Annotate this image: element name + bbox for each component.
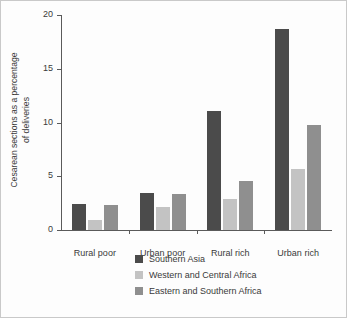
y-axis-tick: 15	[57, 69, 61, 70]
legend-item[interactable]: Western and Central Africa	[135, 267, 262, 283]
x-axis-tick	[197, 230, 198, 234]
y-axis-line	[61, 15, 62, 230]
chart-legend: Southern AsiaWestern and Central AfricaE…	[135, 251, 262, 299]
bar	[291, 169, 305, 230]
x-axis-tick	[264, 230, 265, 234]
y-axis-title-line-2: of deliveries	[20, 52, 32, 187]
plot-area: 05101520 Rural poorUrban poorRural richU…	[61, 15, 332, 230]
x-axis-label: Urban rich	[277, 248, 319, 258]
bar	[275, 29, 289, 230]
y-axis-title: Cesarean sections as a percentage of del…	[3, 9, 37, 231]
x-axis-label: Rural poor	[74, 248, 116, 258]
y-axis-title-line-1: Cesarean sections as a percentage	[9, 52, 21, 187]
y-axis-tick: 20	[57, 15, 61, 16]
legend-swatch-icon	[135, 255, 143, 263]
bar-group	[72, 15, 118, 230]
bar	[140, 193, 154, 230]
bar	[88, 220, 102, 230]
bar	[72, 204, 86, 230]
y-axis-tick-label: 0	[48, 224, 53, 234]
bar	[156, 207, 170, 230]
bar-group	[275, 15, 321, 230]
bar	[223, 199, 237, 230]
legend-label: Eastern and Southern Africa	[149, 286, 262, 296]
y-axis-tick-label: 15	[43, 63, 53, 73]
y-axis-tick-label: 5	[48, 170, 53, 180]
bar	[307, 125, 321, 230]
legend-label: Southern Asia	[149, 254, 205, 264]
y-axis-tick: 10	[57, 123, 61, 124]
bar-group	[207, 15, 253, 230]
chart-figure: Cesarean sections as a percentage of del…	[0, 0, 347, 318]
y-axis-tick-label: 20	[43, 9, 53, 19]
legend-swatch-icon	[135, 287, 143, 295]
y-axis-tick: 0	[57, 230, 61, 231]
legend-swatch-icon	[135, 271, 143, 279]
y-axis-tick-label: 10	[43, 117, 53, 127]
bar	[104, 205, 118, 230]
x-axis-tick	[129, 230, 130, 234]
legend-item[interactable]: Southern Asia	[135, 251, 262, 267]
bar	[239, 181, 253, 230]
legend-label: Western and Central Africa	[149, 270, 256, 280]
bar	[172, 194, 186, 230]
bar-group	[140, 15, 186, 230]
bar	[207, 111, 221, 230]
y-axis-tick: 5	[57, 176, 61, 177]
legend-item[interactable]: Eastern and Southern Africa	[135, 283, 262, 299]
